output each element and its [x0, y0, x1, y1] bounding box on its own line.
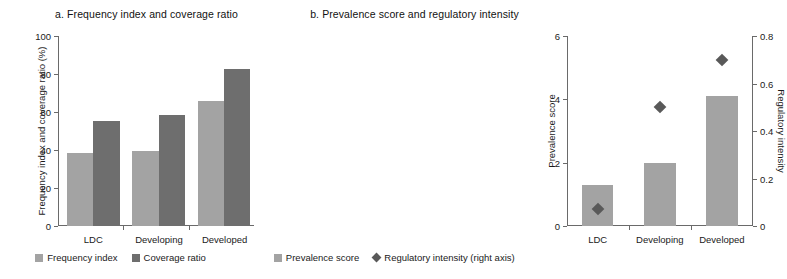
panel-b-ytick-0 — [563, 226, 567, 227]
legend-label-frequency-index: Frequency index — [47, 252, 117, 263]
panel-a-ytick-label-80: 80 — [40, 69, 51, 80]
panel-a-category-ldc: LDC — [84, 234, 103, 245]
legend-swatch-prevalence-score — [274, 254, 282, 262]
panel-b-y2-axis-title: Regulatory intensity — [776, 51, 787, 211]
panel-b-y-axis — [567, 36, 568, 226]
panel-a-ytick-40 — [54, 150, 58, 151]
bar-prevalence-score-developing — [644, 163, 676, 226]
panel-a-ytick-20 — [54, 188, 58, 189]
panel-b-title: b. Prevalence score and regulatory inten… — [275, 8, 550, 20]
panel-b-y2tick-06 — [753, 84, 757, 85]
panel-a-title: a. Frequency index and coverage ratio — [0, 8, 275, 20]
panel-b-y-axis-title: Prevalence score — [546, 51, 557, 211]
panel-a-ytick-0 — [54, 226, 58, 227]
panel-a-ytick-100 — [54, 36, 58, 37]
legend-swatch-frequency-index — [35, 254, 43, 262]
panel-a-ytick-label-20: 20 — [40, 183, 51, 194]
panel-a-plot-area: Frequency index and coverage ratio (%) 1… — [58, 36, 254, 226]
panel-b-prevalence-regulatory: b. Prevalence score and regulatory inten… — [275, 0, 550, 248]
panel-b-category-ldc: LDC — [588, 234, 607, 245]
panel-b-ytick-label-0: 0 — [555, 221, 560, 232]
panel-a-category-developed: Developed — [202, 234, 247, 245]
panel-b-ytick-2 — [563, 163, 567, 164]
legend-swatch-coverage-ratio — [132, 254, 140, 262]
panel-a-category-developing: Developing — [135, 234, 183, 245]
panel-b-xtick-1 — [629, 226, 630, 230]
legend-group-panel-a: Frequency index Coverage ratio — [35, 252, 206, 263]
panel-a-xtick-2 — [189, 226, 190, 230]
legend-label-prevalence-score: Prevalence score — [286, 252, 359, 263]
panel-b-y2tick-label-08: 0.8 — [760, 31, 773, 42]
marker-regulatory-intensity-developing — [653, 101, 666, 114]
panel-b-category-developing: Developing — [636, 234, 684, 245]
panel-b-y2tick-02 — [753, 179, 757, 180]
panel-a-ytick-label-0: 0 — [46, 221, 51, 232]
panel-b-y2tick-label-02: 0.2 — [760, 173, 773, 184]
bar-frequency-index-developed — [198, 101, 224, 226]
panel-b-ytick-4 — [563, 99, 567, 100]
panel-b-plot-area: Prevalence score Regulatory intensity 6 … — [567, 36, 753, 226]
bar-coverage-ratio-developed — [224, 69, 250, 226]
panel-b-y2tick-04 — [753, 131, 757, 132]
panel-b-category-developed: Developed — [699, 234, 744, 245]
panel-b-y2tick-label-04: 0.4 — [760, 126, 773, 137]
panel-b-y2tick-label-06: 0.6 — [760, 78, 773, 89]
legend-item-frequency-index: Frequency index — [35, 252, 117, 263]
legend-item-regulatory-intensity: Regulatory intensity (right axis) — [373, 252, 514, 263]
panel-a-ytick-label-100: 100 — [35, 31, 51, 42]
panel-b-y2tick-label-0: 0 — [760, 221, 765, 232]
panel-b-ytick-label-6: 6 — [555, 31, 560, 42]
panel-a-ytick-60 — [54, 112, 58, 113]
panel-a-y-axis-title: Frequency index and coverage ratio (%) — [36, 36, 47, 226]
panel-b-ytick-label-2: 2 — [555, 157, 560, 168]
legend-item-coverage-ratio: Coverage ratio — [132, 252, 206, 263]
panel-a-ytick-label-40: 40 — [40, 145, 51, 156]
bar-prevalence-score-developed — [706, 96, 738, 226]
legend-item-prevalence-score: Prevalence score — [274, 252, 359, 263]
chart-legend: Frequency index Coverage ratio Prevalenc… — [0, 252, 550, 263]
panel-b-ytick-6 — [563, 36, 567, 37]
panel-b-xtick-2 — [691, 226, 692, 230]
bar-frequency-index-ldc — [67, 153, 93, 226]
panel-b-y2tick-0 — [753, 226, 757, 227]
panel-b-ytick-label-4: 4 — [555, 94, 560, 105]
legend-group-panel-b: Prevalence score Regulatory intensity (r… — [274, 252, 515, 263]
marker-regulatory-intensity-developed — [716, 53, 729, 66]
panel-b-y2tick-08 — [753, 36, 757, 37]
panel-a-frequency-coverage: a. Frequency index and coverage ratio Fr… — [0, 0, 275, 248]
bar-coverage-ratio-ldc — [93, 121, 119, 226]
legend-diamond-regulatory-intensity — [372, 253, 382, 263]
legend-label-coverage-ratio: Coverage ratio — [144, 252, 206, 263]
bar-coverage-ratio-developing — [159, 115, 185, 226]
panel-a-y-axis — [58, 36, 59, 226]
legend-label-regulatory-intensity: Regulatory intensity (right axis) — [384, 252, 514, 263]
bar-frequency-index-developing — [132, 151, 158, 226]
panel-a-ytick-80 — [54, 74, 58, 75]
panel-a-ytick-label-60: 60 — [40, 107, 51, 118]
panel-a-xtick-1 — [123, 226, 124, 230]
